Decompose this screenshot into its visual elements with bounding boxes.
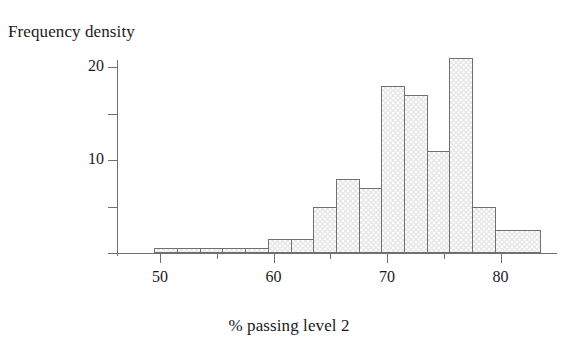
x-tick-70: [387, 253, 388, 263]
x-tick-label-50: 50: [140, 268, 180, 286]
y-tick-20: [108, 67, 117, 68]
histogram-bar: [154, 248, 178, 253]
y-tick-label-10: 10: [64, 151, 104, 167]
y-tick-5: [108, 207, 117, 208]
x-tick-80: [501, 253, 502, 263]
histogram-bar: [222, 248, 246, 253]
x-minor-tick-75: [444, 253, 445, 259]
histogram-bar: [404, 95, 428, 253]
histogram-bar: [268, 239, 292, 253]
x-minor-tick-65: [330, 253, 331, 259]
x-tick-label-70: 70: [367, 268, 407, 286]
histogram-bar: [495, 230, 541, 253]
y-tick-10: [108, 160, 117, 161]
y-tick-label-wrap-20: 20: [58, 67, 104, 68]
histogram-chart: Frequency density 1020 50607080 % passin…: [0, 0, 578, 358]
histogram-bar: [200, 248, 224, 253]
y-tick-15: [108, 114, 117, 115]
y-tick-label-20: 20: [64, 58, 104, 74]
histogram-bar: [245, 248, 269, 253]
x-tick-label-80: 80: [481, 268, 521, 286]
histogram-bar: [177, 248, 201, 253]
histogram-bar: [449, 58, 473, 253]
y-axis-line: [117, 60, 118, 256]
histogram-bar: [336, 179, 360, 253]
histogram-bar: [472, 207, 496, 254]
x-axis-line: [108, 253, 557, 254]
histogram-bar: [427, 151, 451, 253]
histogram-bar: [313, 207, 337, 254]
histogram-bar: [291, 239, 315, 253]
histogram-bar: [381, 86, 405, 253]
x-minor-tick-55: [217, 253, 218, 259]
y-tick-label-wrap-10: 10: [58, 160, 104, 161]
x-tick-label-60: 60: [254, 268, 294, 286]
x-tick-60: [274, 253, 275, 263]
y-axis-title: Frequency density: [8, 22, 135, 42]
x-axis-title: % passing level 2: [0, 316, 578, 336]
x-tick-50: [160, 253, 161, 263]
histogram-bar: [359, 188, 383, 253]
